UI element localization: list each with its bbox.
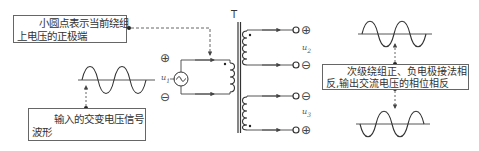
- input-note-leader: [84, 86, 88, 110]
- u2-plus-icon: ⊕: [301, 24, 311, 36]
- output-note-box: 次级绕组正、负电极接法相 反,输出交流电压的相位相反: [322, 64, 469, 90]
- u2-minus-icon: ⊖: [301, 59, 311, 71]
- output-sine-wave-top: [358, 21, 432, 47]
- u3-minus-icon: ⊖: [301, 90, 311, 102]
- secondary-coil-2: [243, 93, 300, 133]
- u3-sub: 3: [307, 111, 311, 118]
- input-note-box: 输入的交变电压信号 波形: [28, 108, 146, 141]
- output-note-line2: 反,输出交流电压的相位相反: [326, 78, 465, 90]
- u1-sub: 1: [166, 77, 170, 84]
- dot-note-line2: 上电压的正极端: [17, 30, 123, 43]
- terminal-u2-bottom: [293, 62, 299, 68]
- output-sine-wave-bottom: [356, 111, 430, 137]
- primary-circuit: [181, 60, 230, 94]
- terminal-u3-top: [293, 93, 299, 99]
- secondary-coil-1: [243, 27, 300, 68]
- label-u2: u2: [302, 43, 311, 54]
- secondary-1-polarity-dot: [249, 34, 251, 36]
- primary-plus-icon: ⊕: [160, 52, 170, 64]
- u2-sub: 2: [307, 47, 311, 54]
- ac-source: [170, 72, 188, 86]
- dot-note-box: 小圆点表示当前绕组 上电压的正极端: [13, 15, 127, 43]
- transformer-core: [238, 22, 241, 133]
- u3-plus-icon: ⊕: [301, 124, 311, 136]
- input-note-line2: 波形: [32, 126, 142, 139]
- input-sine-wave: [78, 67, 155, 94]
- output-note-line1: 次级绕组正、负电极接法相: [326, 66, 465, 78]
- primary-polarity-dot: [224, 63, 226, 65]
- primary-minus-icon: ⊖: [160, 91, 170, 103]
- label-u3: u3: [302, 107, 311, 118]
- label-u1: u1: [161, 73, 170, 84]
- input-note-line1: 输入的交变电压信号: [32, 113, 142, 126]
- primary-coil: [224, 63, 235, 92]
- terminal-u3-bottom: [293, 127, 299, 133]
- terminal-u2-top: [293, 27, 299, 33]
- dot-note-line1: 小圆点表示当前绕组: [17, 17, 123, 30]
- secondary-2-polarity-dot: [249, 125, 251, 127]
- transformer-label: T: [231, 9, 237, 20]
